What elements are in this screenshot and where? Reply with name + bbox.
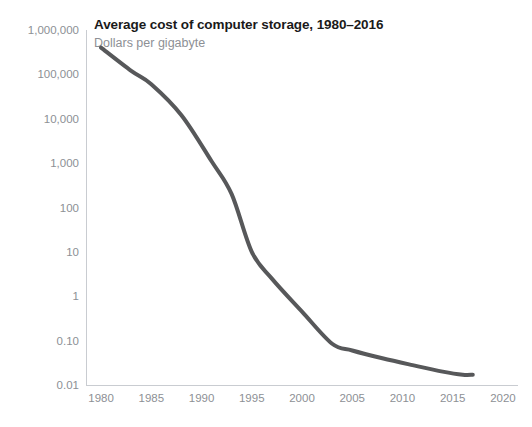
storage-cost-chart: Average cost of computer storage, 1980–2…: [0, 0, 532, 427]
y-tick-label: 1: [73, 290, 79, 302]
x-tick-label: 1980: [88, 392, 114, 405]
y-tick-label: 100: [60, 202, 79, 214]
y-tick-label: 10: [66, 246, 79, 258]
x-tick-label: 2015: [440, 392, 466, 405]
y-tick-label: 0.01: [57, 379, 79, 391]
y-tick-label: 1,000,000: [28, 24, 79, 36]
line-series-path: [101, 48, 473, 375]
x-tick-label: 2020: [490, 392, 516, 405]
x-tick-label: 2005: [339, 392, 365, 405]
chart-subtitle: Dollars per gigabyte: [94, 35, 514, 51]
series-plot: [0, 0, 532, 427]
x-axis-line: [86, 385, 518, 386]
y-tick-label: 100,000: [37, 68, 79, 80]
x-tick-label: 2000: [289, 392, 315, 405]
x-tick-label: 1990: [189, 392, 215, 405]
x-tick-label: 1985: [139, 392, 165, 405]
x-tick-label: 2010: [390, 392, 416, 405]
y-tick-label: 10,000: [44, 113, 79, 125]
chart-title-block: Average cost of computer storage, 1980–2…: [94, 17, 514, 51]
y-axis-tick-labels: 1,000,000100,00010,0001,0001001010.100.0…: [0, 0, 79, 427]
y-axis-line: [86, 30, 87, 386]
page-title: Average cost of computer storage, 1980–2…: [94, 17, 514, 33]
x-tick-label: 1995: [239, 392, 265, 405]
y-tick-label: 0.10: [57, 335, 79, 347]
y-tick-label: 1,000: [50, 157, 79, 169]
